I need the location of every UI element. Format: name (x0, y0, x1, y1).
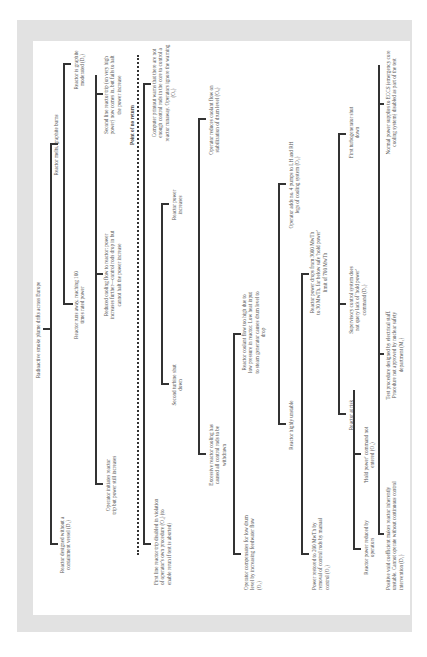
node-reactor-melts: Reactor melts, graphite burns (53, 95, 59, 195)
node-containment: Reactor designed without a containment v… (59, 515, 72, 575)
connector (378, 65, 380, 535)
connector (278, 185, 280, 425)
node-void-coefficient: Positive void coefficient makes reactor … (385, 480, 404, 590)
connector (338, 304, 346, 306)
connector (143, 544, 151, 546)
node-second-trip: Second line reactor trip (on very high p… (103, 55, 122, 135)
node-reduced-cooling: Reduced cooling flow to reactor: power i… (103, 225, 122, 325)
connector (63, 64, 71, 66)
connector (301, 554, 309, 556)
node-test-procedure: Test procedure designed by electrical st… (385, 305, 404, 405)
node-runaway: Reactor runs away, reaching 100 times ra… (73, 265, 86, 345)
connector (278, 424, 286, 426)
node-hold-power: 'Hold power' command not entered (O₁) (363, 425, 376, 485)
node-second-turbine: Second turbine shut down (171, 360, 184, 410)
connector (143, 85, 145, 545)
connector (233, 335, 235, 555)
fault-tree-canvas: Radioactive smoke plume drifts across Eu… (33, 41, 410, 615)
connector (353, 390, 355, 550)
top-event-label: Radioactive smoke plume drifts across Eu… (35, 245, 41, 415)
node-reduce-coolant: Operator reduces coolant flow on stabili… (208, 85, 221, 155)
node-power-drops: Reactor power drops from 3000 MwTh to 30… (309, 230, 328, 315)
connector (301, 275, 303, 555)
connector (95, 274, 103, 276)
connector (338, 414, 346, 416)
node-power-restored: Power restored to 200 MwTh by removal of… (311, 515, 330, 590)
connector (338, 134, 346, 136)
connector (161, 384, 169, 386)
connector (198, 119, 206, 121)
connector (378, 354, 384, 356)
connector (353, 454, 361, 456)
node-feedwater: Operator compensates for low drum level … (243, 515, 262, 590)
connector (198, 120, 200, 455)
node-ecc-disabled: Normal power supplies to ECCS (emergency… (385, 50, 398, 155)
connector (143, 84, 151, 86)
connector (63, 304, 73, 306)
connector (278, 184, 286, 186)
node-graphite: Reactor is graphite moderated (D₂) (73, 40, 86, 100)
node-highly-unstable: Reactor highly unstable (288, 395, 294, 455)
node-power-reduced: Reactor power reduced by operators (363, 520, 376, 575)
node-first-trip-disabled: First line reactor trip disabled in viol… (153, 495, 172, 585)
connector (233, 554, 241, 556)
node-coolant-flow-high: Reactor coolant flow too high due to low… (241, 290, 267, 375)
connector (198, 454, 206, 456)
connector (161, 205, 163, 385)
node-computer-warning: Computer printout warns that there are n… (151, 41, 177, 145)
point-of-no-return-line (137, 55, 139, 555)
node-excessive-cooling: Excessive reactor cooling has caused all… (208, 420, 227, 490)
connector (378, 534, 384, 536)
connector (161, 204, 169, 206)
connector (353, 549, 361, 551)
connector (63, 65, 65, 305)
diagram-paper: Radioactive smoke plume drifts across Eu… (33, 41, 410, 615)
connector (301, 274, 309, 276)
node-pumps: Operator adds no. 4 pumps to LH and RH l… (288, 140, 301, 230)
node-supervisory: Supervisory control system does not quer… (348, 265, 367, 335)
connector (95, 484, 103, 486)
connector (378, 104, 384, 106)
node-operator-trip: Operator initiates reactor trip but powe… (105, 455, 118, 515)
point-of-no-return-label: Point of no return (129, 55, 135, 145)
node-first-turbogen: First turbogenerator shut down (348, 105, 361, 160)
connector (338, 135, 340, 415)
connector (95, 75, 97, 485)
connector (233, 334, 241, 336)
connector (50, 145, 52, 545)
node-power-increases: Reactor power increases (171, 180, 184, 230)
connector (95, 94, 103, 96)
connector (50, 544, 58, 546)
